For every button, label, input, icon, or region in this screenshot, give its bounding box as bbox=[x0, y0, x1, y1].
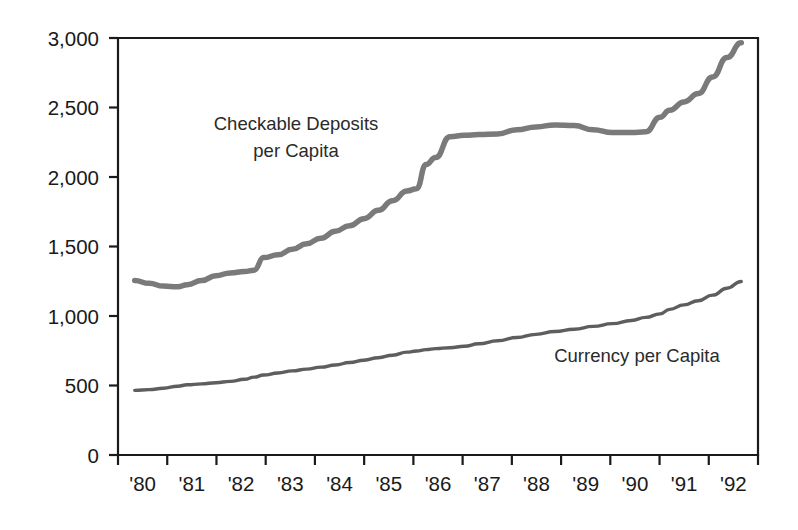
y-tick-label: 1,500 bbox=[48, 235, 99, 258]
x-tick-label: '92 bbox=[720, 472, 747, 495]
x-tick-label: '89 bbox=[572, 472, 599, 495]
x-tick-label: '91 bbox=[671, 472, 698, 495]
y-tick-label: 500 bbox=[65, 374, 99, 397]
series-label-currency: Currency per Capita bbox=[554, 345, 720, 366]
series-label-checkable-deposits-line2: per Capita bbox=[253, 140, 339, 161]
x-tick-label: '90 bbox=[622, 472, 649, 495]
line-chart: 05001,0001,5002,0002,5003,000 '80'81'82'… bbox=[0, 0, 798, 530]
y-tick-label: 1,000 bbox=[48, 305, 99, 328]
y-tick-label: 2,500 bbox=[48, 96, 99, 119]
y-tick-label: 3,000 bbox=[48, 27, 99, 50]
x-tick-label: '88 bbox=[523, 472, 550, 495]
series-label-checkable-deposits-line1: Checkable Deposits bbox=[214, 113, 379, 134]
chart-container: 05001,0001,5002,0002,5003,000 '80'81'82'… bbox=[0, 0, 798, 530]
y-tick-label: 2,000 bbox=[48, 166, 99, 189]
x-tick-label: '80 bbox=[129, 472, 156, 495]
x-tick-label: '84 bbox=[326, 472, 353, 495]
x-tick-label: '87 bbox=[474, 472, 501, 495]
chart-background bbox=[0, 0, 798, 530]
x-tick-label: '82 bbox=[228, 472, 255, 495]
x-tick-label: '86 bbox=[425, 472, 452, 495]
y-tick-label: 0 bbox=[88, 444, 99, 467]
x-tick-label: '85 bbox=[375, 472, 402, 495]
x-tick-label: '83 bbox=[277, 472, 304, 495]
x-tick-label: '81 bbox=[178, 472, 205, 495]
